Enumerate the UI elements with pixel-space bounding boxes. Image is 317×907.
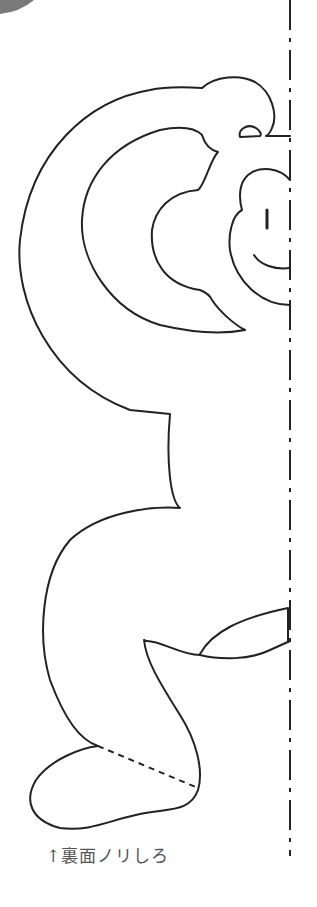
corner-shape bbox=[0, 0, 34, 14]
face-outline bbox=[230, 169, 291, 305]
ear-hole bbox=[240, 126, 261, 137]
papercraft-sheet: ↑裏面ノリしろ bbox=[0, 0, 317, 907]
outer-arm-outline bbox=[19, 87, 290, 828]
glue-margin-caption: ↑裏面ノリしろ bbox=[46, 842, 169, 867]
monkey-cutout-drawing bbox=[0, 0, 317, 907]
foot-fold-line bbox=[98, 746, 198, 788]
inner-arm-outline bbox=[82, 128, 245, 333]
mouth bbox=[254, 255, 290, 268]
